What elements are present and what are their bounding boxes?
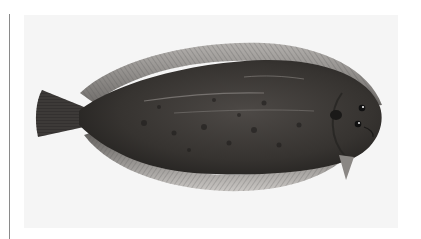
pelvic-fin (339, 155, 354, 180)
left-divider-line (9, 14, 10, 239)
sole-fish-illustration (24, 15, 398, 228)
tail-fin (36, 90, 84, 137)
illustration-panel: Scientific illustration of a dark-brown … (24, 15, 398, 228)
pectoral-fin-spot (330, 110, 342, 120)
